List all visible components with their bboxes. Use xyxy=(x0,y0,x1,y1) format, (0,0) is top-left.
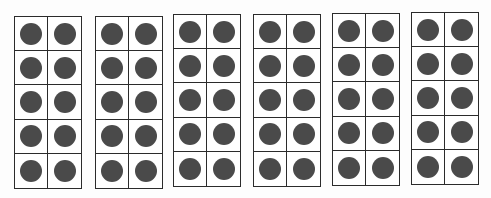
counter-dot-icon xyxy=(338,157,360,179)
counter-dot-icon xyxy=(135,23,157,45)
counter-dot-icon xyxy=(293,21,315,43)
counter-dot-icon xyxy=(259,21,281,43)
counter-dot-icon xyxy=(451,121,473,143)
counter-dot-icon xyxy=(179,55,201,77)
counter-dot-icon xyxy=(54,125,76,147)
ten-frame-cell xyxy=(15,85,48,119)
counter-dot-icon xyxy=(213,158,235,180)
ten-frame-cell xyxy=(366,14,399,48)
ten-frame-cell xyxy=(48,85,81,119)
counter-dot-icon xyxy=(135,91,157,113)
ten-frame-cell xyxy=(15,51,48,85)
ten-frame-cell xyxy=(254,15,287,49)
counter-dot-icon xyxy=(417,19,439,41)
counter-dot-icon xyxy=(451,53,473,75)
counter-dot-icon xyxy=(213,55,235,77)
counter-dot-icon xyxy=(338,54,360,76)
ten-frame-cell xyxy=(333,151,366,185)
counter-dot-icon xyxy=(451,87,473,109)
ten-frame-cell xyxy=(287,15,320,49)
ten-frame-cell xyxy=(129,85,162,119)
ten-frame-cell xyxy=(445,150,478,184)
ten-frame-cell xyxy=(207,15,240,49)
counter-dot-icon xyxy=(213,21,235,43)
ten-frame-cell xyxy=(96,17,129,51)
ten-frame-cell xyxy=(445,116,478,150)
ten-frame-cell xyxy=(48,17,81,51)
counter-dot-icon xyxy=(101,57,123,79)
ten-frame-cell xyxy=(129,120,162,154)
ten-frame-cell xyxy=(412,81,445,115)
ten-frame-cell xyxy=(15,17,48,51)
ten-frame-cell xyxy=(366,151,399,185)
counter-dot-icon xyxy=(372,122,394,144)
counter-dot-icon xyxy=(338,20,360,42)
counter-dot-icon xyxy=(20,57,42,79)
counter-dot-icon xyxy=(101,160,123,182)
counter-dot-icon xyxy=(372,54,394,76)
ten-frame-cell xyxy=(333,82,366,116)
ten-frame-cell xyxy=(174,83,207,117)
counter-dot-icon xyxy=(179,89,201,111)
ten-frame-cell xyxy=(366,117,399,151)
ten-frame-cell xyxy=(207,83,240,117)
ten-frame-cell xyxy=(445,81,478,115)
ten-frame-cell xyxy=(129,51,162,85)
ten-frame-cell xyxy=(287,118,320,152)
counter-dot-icon xyxy=(293,89,315,111)
counter-dot-icon xyxy=(451,19,473,41)
ten-frame-cell xyxy=(129,154,162,188)
counter-dot-icon xyxy=(451,156,473,178)
counter-dot-icon xyxy=(293,158,315,180)
ten-frame-cell xyxy=(254,118,287,152)
counter-dot-icon xyxy=(20,125,42,147)
ten-frame-cell xyxy=(366,48,399,82)
counter-dot-icon xyxy=(259,158,281,180)
counter-dot-icon xyxy=(54,23,76,45)
counter-dot-icon xyxy=(213,123,235,145)
counter-dot-icon xyxy=(417,156,439,178)
counter-dot-icon xyxy=(54,57,76,79)
ten-frame-cell xyxy=(207,49,240,83)
ten-frame-cell xyxy=(254,83,287,117)
ten-frame-cell xyxy=(174,49,207,83)
ten-frame-cell xyxy=(254,49,287,83)
ten-frame-cell xyxy=(174,15,207,49)
ten-frame-cell xyxy=(412,116,445,150)
ten-frame-cell xyxy=(333,14,366,48)
ten-frame-cell xyxy=(333,48,366,82)
ten-frame-cell xyxy=(174,152,207,186)
counter-dot-icon xyxy=(179,21,201,43)
counter-dot-icon xyxy=(293,123,315,145)
ten-frame-cell xyxy=(96,51,129,85)
ten-frame-cell xyxy=(48,120,81,154)
ten-frame-6 xyxy=(411,12,479,185)
counter-dot-icon xyxy=(54,160,76,182)
counter-dot-icon xyxy=(338,88,360,110)
counter-dot-icon xyxy=(372,88,394,110)
counter-dot-icon xyxy=(259,55,281,77)
ten-frame-cell xyxy=(15,154,48,188)
ten-frame-cell xyxy=(207,152,240,186)
counter-dot-icon xyxy=(259,89,281,111)
counter-dot-icon xyxy=(293,55,315,77)
ten-frame-cell xyxy=(412,150,445,184)
ten-frame-4 xyxy=(253,14,321,187)
ten-frame-cell xyxy=(287,49,320,83)
counter-dot-icon xyxy=(179,158,201,180)
ten-frame-cell xyxy=(412,13,445,47)
ten-frame-cell xyxy=(445,47,478,81)
ten-frame-cell xyxy=(287,152,320,186)
ten-frame-1 xyxy=(14,16,82,189)
counter-dot-icon xyxy=(213,89,235,111)
ten-frame-cell xyxy=(207,118,240,152)
ten-frame-cell xyxy=(96,120,129,154)
counter-dot-icon xyxy=(417,121,439,143)
ten-frame-cell xyxy=(174,118,207,152)
ten-frame-cell xyxy=(333,117,366,151)
ten-frame-5 xyxy=(332,13,400,186)
counter-dot-icon xyxy=(417,87,439,109)
counter-dot-icon xyxy=(338,122,360,144)
ten-frame-2 xyxy=(95,16,163,189)
counter-dot-icon xyxy=(135,57,157,79)
